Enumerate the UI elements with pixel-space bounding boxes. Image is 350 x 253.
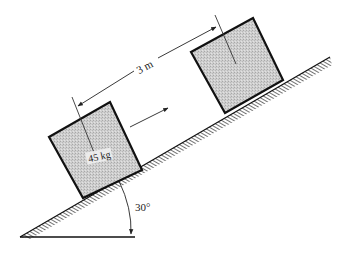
block-lower-body	[49, 102, 142, 198]
dimension-line-left	[78, 71, 134, 106]
block-lower: 45 kg	[49, 97, 142, 198]
incline-diagram: 30° 45 kg 3 m	[0, 0, 350, 253]
angle-label: 30°	[135, 201, 150, 213]
angle-arc-arrow	[119, 181, 131, 234]
distance-dimension: 3 m	[78, 27, 216, 106]
distance-label: 3 m	[134, 57, 155, 76]
motion-arrow	[130, 108, 168, 127]
